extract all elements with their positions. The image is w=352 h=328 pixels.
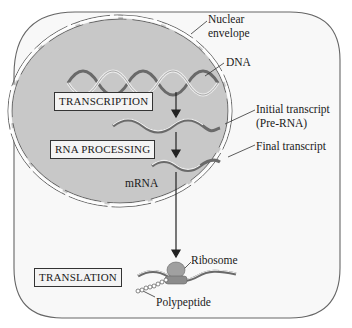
label-pre-rna: (Pre-RNA) xyxy=(256,117,307,130)
label-polypeptide: Polypeptide xyxy=(156,296,211,309)
step-translation: TRANSLATION xyxy=(34,268,122,287)
label-mrna: mRNA xyxy=(125,177,158,190)
label-dna: DNA xyxy=(226,56,251,69)
label-initial-transcript: Initial transcript xyxy=(256,103,330,116)
label-ribosome: Ribosome xyxy=(191,254,238,267)
label-final-transcript: Final transcript xyxy=(256,140,326,153)
step-rna-processing: RNA PROCESSING xyxy=(50,140,155,159)
label-nuclear-envelope-2: envelope xyxy=(208,27,250,40)
label-nuclear-envelope-1: Nuclear xyxy=(208,13,244,26)
step-transcription: TRANSCRIPTION xyxy=(54,92,153,111)
nucleus xyxy=(8,15,232,207)
